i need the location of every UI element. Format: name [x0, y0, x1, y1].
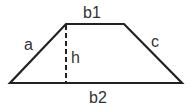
label-a: a	[24, 36, 33, 53]
label-b2: b2	[89, 89, 107, 106]
label-b1: b1	[83, 4, 101, 21]
label-h: h	[71, 49, 80, 66]
label-c: c	[151, 33, 159, 50]
trapezoid-diagram: b1 a h c b2	[0, 0, 195, 107]
